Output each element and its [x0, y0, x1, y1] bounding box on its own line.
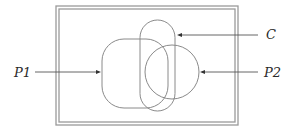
region-p2	[145, 45, 199, 99]
arrowhead-icon	[96, 70, 101, 74]
label-p1: P1	[13, 65, 31, 80]
arrow-p1	[35, 70, 101, 74]
region-diagram: C P1 P2	[0, 0, 295, 131]
label-c: C	[266, 27, 276, 42]
arrowhead-icon	[177, 33, 182, 37]
label-p2: P2	[263, 65, 281, 80]
region-c	[140, 20, 175, 111]
arrowhead-icon	[200, 70, 205, 74]
arrow-p2	[200, 70, 258, 74]
arrow-c	[177, 33, 258, 37]
frame-inner	[59, 9, 235, 122]
